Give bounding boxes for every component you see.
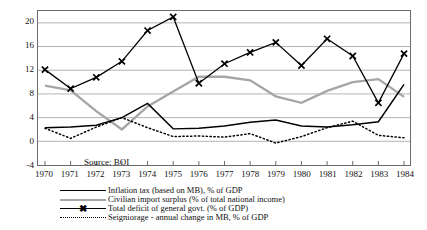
- y-tick-label: -4: [0, 161, 34, 170]
- series-line: [45, 118, 404, 143]
- chart-legend: Inflation tax (based on MB), % of GDPCiv…: [60, 186, 390, 222]
- legend-x-marker-icon: ✖: [79, 204, 87, 213]
- y-axis: 201612840-4: [0, 0, 34, 230]
- x-tick-label: 1976: [190, 169, 208, 179]
- y-tick-label: 16: [0, 41, 34, 50]
- data-point-marker: [401, 51, 407, 57]
- data-point-marker: [350, 53, 356, 59]
- x-tick-label: 1979: [267, 169, 285, 179]
- chart-figure: 201612840-4 Source: BOI 1970197119721973…: [0, 0, 427, 230]
- legend-swatch-icon: ✖: [60, 204, 106, 213]
- data-point-marker: [170, 14, 176, 20]
- legend-line: [60, 190, 106, 191]
- data-point-marker: [221, 61, 227, 67]
- y-tick-label: 20: [0, 17, 34, 26]
- x-tick-label: 1977: [216, 169, 234, 179]
- legend-swatch-icon: [60, 213, 106, 222]
- series-lines: [38, 11, 410, 165]
- x-tick-label: 1970: [35, 169, 53, 179]
- x-axis: 1970197119721973197419751976197719781979…: [37, 169, 411, 183]
- y-tick-label: 0: [0, 137, 34, 146]
- data-point-marker: [119, 58, 125, 64]
- x-tick-label: 1980: [293, 169, 311, 179]
- series-line: [45, 17, 404, 103]
- data-point-marker: [298, 62, 304, 68]
- data-point-marker: [247, 49, 253, 55]
- data-point-marker: [42, 67, 48, 73]
- x-tick-label: 1978: [241, 169, 259, 179]
- x-tick-label: 1973: [112, 169, 130, 179]
- legend-item: Seigniorage - annual change in MB, % of …: [60, 213, 390, 222]
- x-tick-label: 1984: [396, 169, 414, 179]
- x-tick-label: 1972: [87, 169, 105, 179]
- data-point-marker: [196, 80, 202, 86]
- legend-line: [60, 199, 106, 201]
- data-point-marker: [273, 39, 279, 45]
- legend-swatch-icon: [60, 186, 106, 195]
- x-tick-label: 1975: [164, 169, 182, 179]
- data-point-marker: [375, 100, 381, 106]
- source-annotation: Source: BOI: [84, 157, 129, 167]
- x-tick-label: 1981: [319, 169, 337, 179]
- legend-line: [60, 217, 106, 218]
- legend-label: Seigniorage - annual change in MB, % of …: [108, 213, 268, 222]
- x-tick-label: 1974: [138, 169, 156, 179]
- data-point-marker: [324, 36, 330, 42]
- y-tick-label: 12: [0, 65, 34, 74]
- data-point-marker: [144, 27, 150, 33]
- x-tick-label: 1971: [61, 169, 79, 179]
- y-tick-label: 8: [0, 89, 34, 98]
- y-tick-label: 4: [0, 113, 34, 122]
- x-tick-label: 1983: [370, 169, 388, 179]
- data-point-marker: [93, 74, 99, 80]
- x-tick-label: 1982: [344, 169, 362, 179]
- plot-area: Source: BOI: [37, 10, 411, 166]
